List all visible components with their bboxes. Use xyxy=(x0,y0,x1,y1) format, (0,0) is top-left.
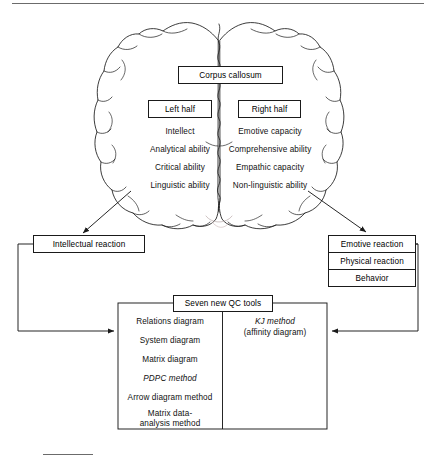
right-trait-2: Empathic capacity xyxy=(236,163,304,172)
right-trait-0: Emotive capacity xyxy=(238,127,302,136)
qc-tools-header-box: Seven new QC tools xyxy=(173,295,273,312)
qc-tool-6: analysis method xyxy=(140,419,201,428)
corpus-callosum-box: Corpus callosum xyxy=(178,66,283,84)
feedback-loop-left xyxy=(18,244,114,331)
figure-canvas: Corpus callosum Left half Right half Int… xyxy=(0,0,436,464)
left-trait-2: Critical ability xyxy=(155,163,205,172)
qc-tool-5: Matrix data- xyxy=(148,409,192,418)
qc-tool-2: Matrix diagram xyxy=(142,355,198,364)
intellectual-reaction-label: Intellectual reaction xyxy=(53,240,126,249)
qc-tool-1: System diagram xyxy=(140,336,201,345)
left-trait-3: Linguistic ability xyxy=(150,181,209,190)
qc-tool-0: Relations diagram xyxy=(136,317,204,326)
arrow-brain-to-emotive xyxy=(308,191,366,232)
right-half-label: Right half xyxy=(252,105,288,114)
left-trait-1: Analytical ability xyxy=(150,145,210,154)
emotive-reaction-label: Emotive reaction xyxy=(341,240,404,249)
kj-method-label: KJ method xyxy=(255,317,295,326)
intellectual-reaction-box: Intellectual reaction xyxy=(33,235,145,253)
right-trait-3: Non-linguistic ability xyxy=(233,181,308,190)
left-half-label: Left half xyxy=(165,105,195,114)
qc-tools-header-label: Seven new QC tools xyxy=(185,299,261,308)
behavior-box: Behavior xyxy=(328,269,416,287)
arrow-brain-to-intellectual xyxy=(83,191,131,233)
physical-reaction-box: Physical reaction xyxy=(328,252,416,270)
right-trait-1: Comprehensive ability xyxy=(229,145,312,154)
left-trait-0: Intellect xyxy=(165,127,194,136)
qc-tool-4: Arrow diagram method xyxy=(128,393,213,402)
left-half-box: Left half xyxy=(148,100,212,118)
emotive-reaction-box: Emotive reaction xyxy=(328,235,416,253)
corpus-callosum-label: Corpus callosum xyxy=(199,71,261,80)
behavior-label: Behavior xyxy=(355,274,388,283)
affinity-diagram-label: (affinity diagram) xyxy=(244,328,307,337)
physical-reaction-label: Physical reaction xyxy=(340,257,404,266)
brain-outline-icon xyxy=(94,23,344,229)
qc-tool-3: PDPC method xyxy=(143,374,196,383)
right-half-box: Right half xyxy=(238,100,301,118)
